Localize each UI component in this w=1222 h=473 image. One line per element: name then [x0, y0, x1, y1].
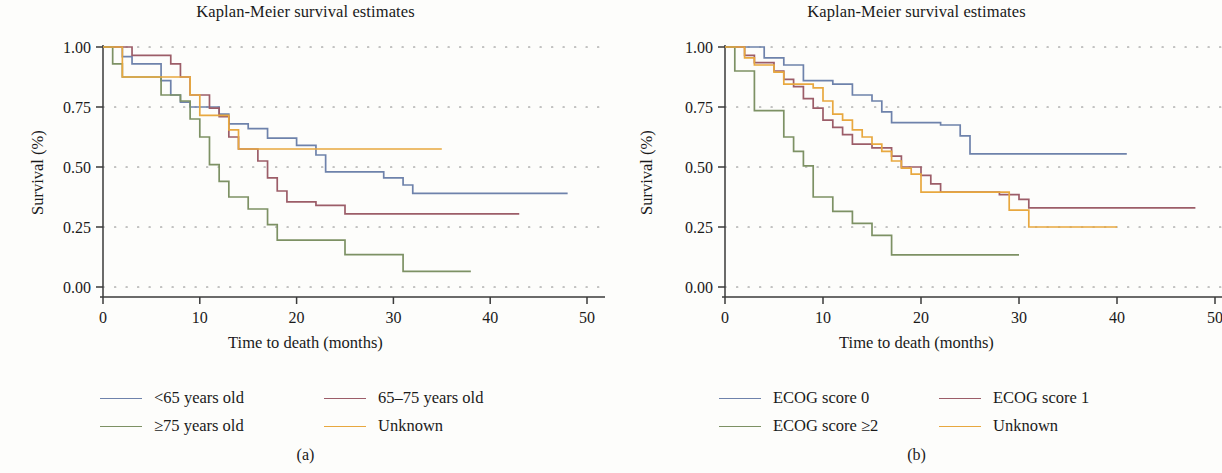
x-tick-label: 10 — [815, 309, 831, 326]
panel-b-x-axis-label: Time to death (months) — [611, 333, 1222, 353]
panel-a-x-axis-label: Time to death (months) — [0, 333, 611, 353]
legend-item[interactable]: ≥75 years old — [100, 416, 324, 436]
survival-curve — [103, 47, 442, 149]
panel-a-y-axis-label: Survival (%) — [28, 130, 48, 215]
y-tick-label: 1.00 — [685, 39, 713, 56]
legend-label: <65 years old — [154, 388, 244, 408]
legend-row: ≥75 years oldUnknown — [100, 412, 548, 440]
legend-line-icon — [100, 398, 142, 399]
x-tick-label: 30 — [385, 309, 401, 326]
x-tick-label: 10 — [192, 309, 208, 326]
x-tick-label: 20 — [289, 309, 305, 326]
x-tick-label: 50 — [1207, 309, 1222, 326]
kaplan-meier-figure: Kaplan-Meier survival estimates 0.000.25… — [0, 0, 1222, 473]
panel-b-subcaption: (b) — [611, 446, 1222, 464]
y-tick-label: 0.00 — [685, 279, 713, 296]
legend-line-icon — [939, 398, 981, 399]
y-tick-label: 0.25 — [63, 219, 91, 236]
survival-curve — [103, 47, 519, 214]
x-tick-label: 30 — [1011, 309, 1027, 326]
x-tick-label: 0 — [99, 309, 107, 326]
legend-line-icon — [719, 398, 761, 399]
legend-item[interactable]: ECOG score ≥2 — [719, 416, 939, 436]
legend-item[interactable]: ECOG score 1 — [939, 388, 1159, 408]
y-tick-label: 0.75 — [63, 99, 91, 116]
y-tick-label: 1.00 — [63, 39, 91, 56]
x-tick-label: 0 — [721, 309, 729, 326]
panel-b-legend: ECOG score 0ECOG score 1ECOG score ≥2Unk… — [719, 384, 1159, 440]
legend-line-icon — [719, 426, 761, 427]
legend-label: ≥75 years old — [154, 416, 244, 436]
panel-a-legend: <65 years old65–75 years old≥75 years ol… — [100, 384, 548, 440]
legend-line-icon — [324, 426, 366, 427]
x-tick-label: 50 — [579, 309, 595, 326]
legend-line-icon — [100, 426, 142, 427]
x-tick-label: 40 — [1109, 309, 1125, 326]
panel-a-subcaption: (a) — [0, 446, 611, 464]
legend-line-icon — [324, 398, 366, 399]
legend-item[interactable]: <65 years old — [100, 388, 324, 408]
survival-curve — [103, 47, 471, 271]
survival-curve — [103, 47, 568, 193]
panel-a: Kaplan-Meier survival estimates 0.000.25… — [0, 0, 611, 473]
legend-item[interactable]: Unknown — [324, 416, 548, 436]
legend-label: Unknown — [378, 416, 443, 436]
legend-label: ECOG score 1 — [993, 388, 1089, 408]
legend-line-icon — [939, 426, 981, 427]
legend-label: Unknown — [993, 416, 1058, 436]
legend-item[interactable]: Unknown — [939, 416, 1159, 436]
legend-row: ECOG score 0ECOG score 1 — [719, 384, 1159, 412]
legend-item[interactable]: ECOG score 0 — [719, 388, 939, 408]
x-tick-label: 20 — [913, 309, 929, 326]
panel-b-y-axis-label: Survival (%) — [637, 130, 657, 215]
legend-row: ECOG score ≥2Unknown — [719, 412, 1159, 440]
legend-label: ECOG score ≥2 — [773, 416, 878, 436]
x-tick-label: 40 — [482, 309, 498, 326]
survival-curve — [725, 47, 1019, 255]
y-tick-label: 0.25 — [685, 219, 713, 236]
legend-item[interactable]: 65–75 years old — [324, 388, 548, 408]
legend-label: ECOG score 0 — [773, 388, 869, 408]
legend-row: <65 years old65–75 years old — [100, 384, 548, 412]
y-tick-label: 0.50 — [63, 159, 91, 176]
panel-b: Kaplan-Meier survival estimates 0.000.25… — [611, 0, 1222, 473]
y-tick-label: 0.75 — [685, 99, 713, 116]
legend-label: 65–75 years old — [378, 388, 483, 408]
y-tick-label: 0.00 — [63, 279, 91, 296]
y-tick-label: 0.50 — [685, 159, 713, 176]
